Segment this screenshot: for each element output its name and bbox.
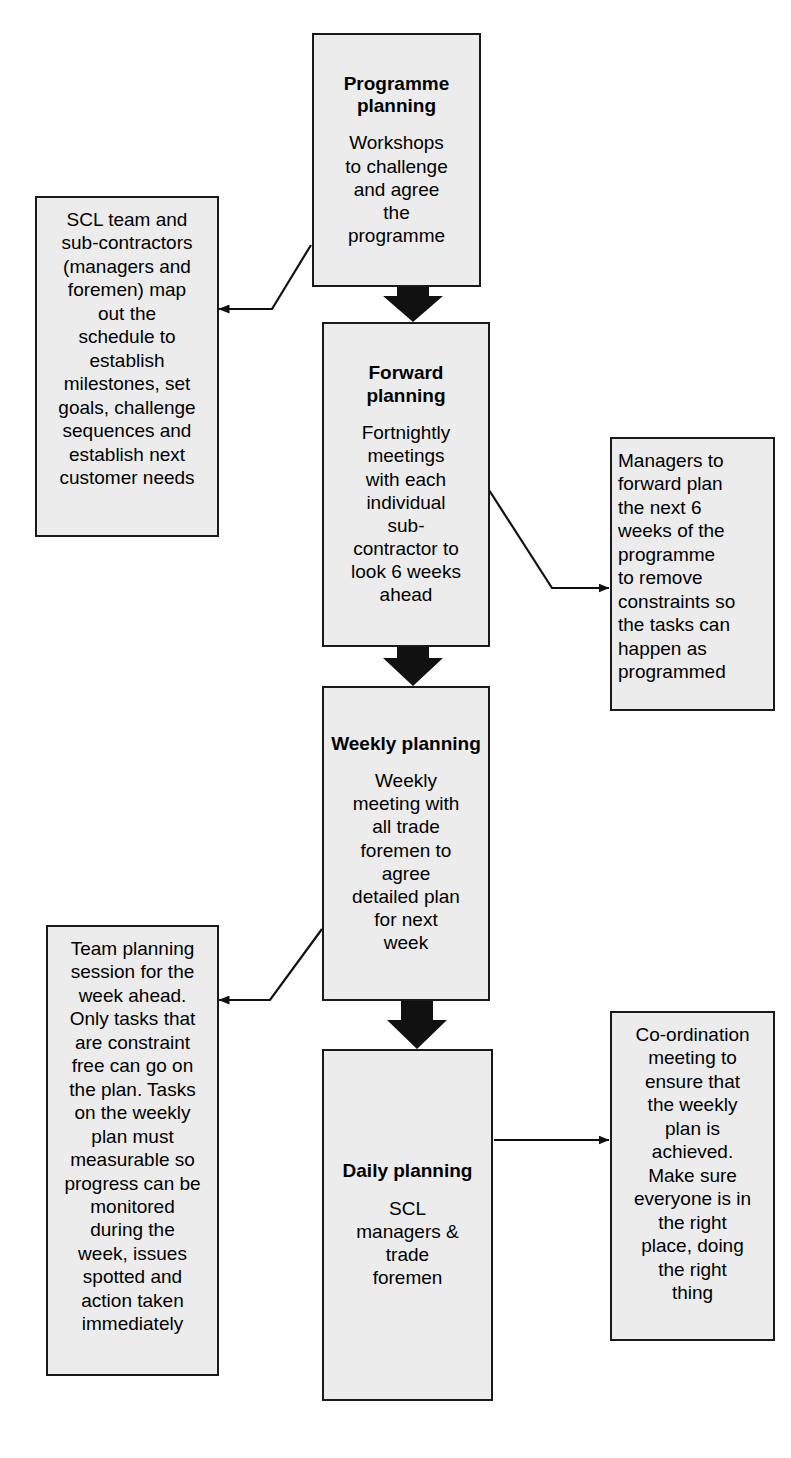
stage-box-weekly-planning: Weekly planning Weekly meeting with all … <box>322 686 490 1001</box>
stage-box-forward-planning: Forward planning Fortnightly meetings wi… <box>322 322 490 647</box>
connector-forward-to-managers-note <box>489 490 609 588</box>
stage-body-programme-planning: Workshops to challenge and agree the pro… <box>345 131 447 247</box>
note-box-managers-forward-plan: Managers to forward plan the next 6 week… <box>610 437 775 711</box>
connector-weekly-to-team-note <box>219 929 322 1000</box>
stage-body-forward-planning: Fortnightly meetings with each individua… <box>351 421 461 606</box>
block-arrow-forward-to-weekly <box>383 646 443 686</box>
note-body-scl-team: SCL team and sub-contractors (managers a… <box>43 208 211 489</box>
block-arrow-programme-to-forward <box>383 287 443 322</box>
block-arrow-weekly-to-daily <box>387 1000 447 1049</box>
stage-title-forward-planning: Forward planning <box>330 362 482 407</box>
stage-title-daily-planning: Daily planning <box>343 1160 473 1182</box>
note-body-managers-forward-plan: Managers to forward plan the next 6 week… <box>618 449 767 684</box>
connector-programme-to-scl-note <box>219 245 311 309</box>
stage-title-programme-planning: Programme planning <box>320 73 473 118</box>
stage-body-weekly-planning: Weekly meeting with all trade foremen to… <box>352 769 460 954</box>
note-box-co-ordination-meeting: Co-ordination meeting to ensure that the… <box>610 1011 775 1341</box>
stage-body-daily-planning: SCL managers & trade foremen <box>356 1197 458 1290</box>
note-body-team-planning-session: Team planning session for the week ahead… <box>54 937 211 1336</box>
diagram-canvas: Programme planning Workshops to challeng… <box>0 0 791 1458</box>
stage-title-weekly-planning: Weekly planning <box>331 733 481 755</box>
note-box-team-planning-session: Team planning session for the week ahead… <box>46 925 219 1376</box>
stage-box-programme-planning: Programme planning Workshops to challeng… <box>312 33 481 287</box>
note-box-scl-team: SCL team and sub-contractors (managers a… <box>35 196 219 537</box>
stage-box-daily-planning: Daily planning SCL managers & trade fore… <box>322 1049 493 1401</box>
note-body-co-ordination-meeting: Co-ordination meeting to ensure that the… <box>618 1023 767 1304</box>
